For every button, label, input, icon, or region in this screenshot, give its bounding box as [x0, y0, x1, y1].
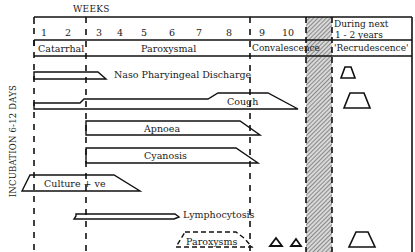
weeks-label: WEEKS	[73, 5, 110, 14]
row-label-lymphocytosis: Lymphocytosis	[183, 210, 254, 220]
phase-catarrhal: Catarrhal	[38, 44, 84, 54]
bar-naso-discharge	[34, 72, 106, 79]
week-number: 6	[169, 28, 175, 38]
recrudescence-paroxysms	[349, 232, 375, 247]
row-label-naso-discharge: Naso Pharyingeal Discharge	[114, 70, 251, 80]
week-number: 5	[141, 28, 147, 38]
week-number: 1	[41, 28, 47, 38]
week-number: 4	[117, 28, 123, 38]
pertussis-timeline-diagram: WEEKS 1 2 3 4 5 6 7 8 9 10 During next 1…	[0, 0, 415, 252]
row-label-cyanosis: Cyanosis	[144, 151, 187, 161]
future-period-sublabel: 1 - 2 years	[335, 31, 383, 40]
future-period-label: During next	[334, 20, 388, 29]
paroxysm-triangle-1	[270, 238, 282, 246]
incubation-side-label: INCUBATION 6-12 DAYS	[9, 87, 18, 197]
paroxysm-triangle-2	[291, 239, 301, 246]
week-number: 10	[282, 28, 294, 38]
row-label-culture: Culture + ve	[44, 179, 106, 189]
week-number: 3	[96, 28, 102, 38]
bar-lymphocytosis	[74, 214, 179, 219]
week-number: 7	[196, 28, 202, 38]
week-number: 8	[226, 28, 232, 38]
phase-recrudescence: 'Recrudescence'	[334, 44, 408, 53]
recrudescence-cough	[344, 93, 370, 108]
week-number: 2	[65, 28, 71, 38]
row-label-paroxysms: Paroxysms	[186, 237, 237, 247]
recrudescence-naso	[341, 67, 355, 78]
week-number: 9	[259, 28, 265, 38]
bar-cough	[34, 93, 298, 109]
phase-paroxysmal: Paroxysmal	[141, 44, 196, 54]
row-label-cough: Cough	[227, 97, 258, 107]
phase-convalescence: Convalescence	[252, 44, 320, 53]
row-label-apnoea: Apnoea	[144, 124, 180, 134]
